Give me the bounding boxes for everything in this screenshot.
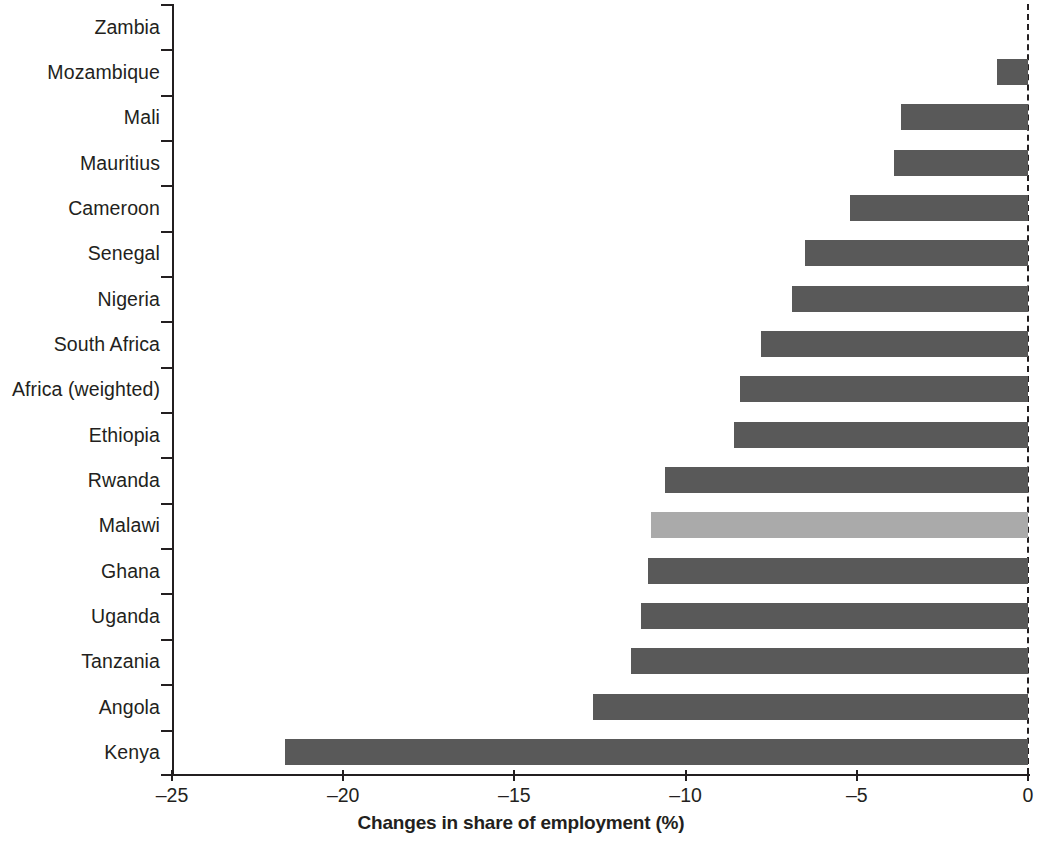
bar-row: Mali	[0, 95, 1042, 140]
bar-uganda	[641, 603, 1028, 629]
category-label-zambia: Zambia	[94, 15, 172, 38]
y-axis-tick	[161, 730, 172, 732]
y-axis-tick	[161, 503, 172, 505]
y-axis-tick	[161, 684, 172, 686]
category-label-mozambique: Mozambique	[47, 61, 172, 84]
category-label-ethiopia: Ethiopia	[89, 423, 172, 446]
category-label-senegal: Senegal	[88, 242, 172, 265]
bar-row: Rwanda	[0, 457, 1042, 502]
bar-cameroon	[850, 195, 1028, 221]
x-axis-tick-label: –25	[156, 784, 189, 807]
bar-row: Uganda	[0, 593, 1042, 638]
y-axis-tick	[161, 276, 172, 278]
bar-rows: ZambiaMozambiqueMaliMauritiusCameroonSen…	[0, 4, 1042, 775]
x-axis-tick	[1027, 770, 1029, 781]
y-axis-tick	[161, 593, 172, 595]
bar-row: Mozambique	[0, 49, 1042, 94]
y-axis-tick	[161, 95, 172, 97]
bar-row: Mauritius	[0, 140, 1042, 185]
bar-chart-figure: ZambiaMozambiqueMaliMauritiusCameroonSen…	[0, 0, 1042, 846]
x-axis-tick	[171, 770, 173, 781]
bar-south-africa	[761, 331, 1028, 357]
bar-row: Ghana	[0, 548, 1042, 593]
bar-africa-weighted	[740, 376, 1028, 402]
bar-row: Ethiopia	[0, 412, 1042, 457]
bar-row: Kenya	[0, 730, 1042, 775]
x-axis-tick	[856, 770, 858, 781]
category-label-cameroon: Cameroon	[68, 197, 172, 220]
category-label-tanzania: Tanzania	[81, 650, 172, 673]
bar-nigeria	[792, 286, 1028, 312]
bar-kenya	[285, 739, 1028, 765]
bar-row: Malawi	[0, 503, 1042, 548]
bar-row: Nigeria	[0, 276, 1042, 321]
x-axis-tick	[513, 770, 515, 781]
category-label-africa-weighted: Africa (weighted)	[12, 378, 172, 401]
bar-row: Zambia	[0, 4, 1042, 49]
category-label-uganda: Uganda	[91, 605, 172, 628]
x-axis-tick-label: 0	[1023, 784, 1034, 807]
x-axis-tick	[342, 770, 344, 781]
y-axis-tick	[161, 548, 172, 550]
bar-row: Africa (weighted)	[0, 367, 1042, 412]
y-axis-tick	[161, 639, 172, 641]
x-axis-tick-label: –10	[669, 784, 702, 807]
y-axis-tick	[161, 231, 172, 233]
category-label-south-africa: South Africa	[54, 333, 172, 356]
x-axis-tick-label: –20	[327, 784, 360, 807]
y-axis-tick	[161, 367, 172, 369]
y-axis-tick	[161, 4, 172, 6]
x-axis-tick-label: –15	[498, 784, 531, 807]
category-label-rwanda: Rwanda	[88, 469, 172, 492]
bar-row: Cameroon	[0, 185, 1042, 230]
bar-mozambique	[997, 59, 1028, 85]
category-label-mali: Mali	[124, 106, 172, 129]
bar-row: Tanzania	[0, 639, 1042, 684]
x-axis-tick	[685, 770, 687, 781]
bar-ghana	[648, 558, 1028, 584]
bar-row: Senegal	[0, 231, 1042, 276]
category-label-angola: Angola	[99, 695, 172, 718]
y-axis-tick	[161, 185, 172, 187]
bar-ethiopia	[734, 422, 1028, 448]
bar-mali	[901, 104, 1028, 130]
bar-tanzania	[631, 648, 1028, 674]
plot-area: ZambiaMozambiqueMaliMauritiusCameroonSen…	[0, 0, 1042, 790]
bar-rwanda	[665, 467, 1028, 493]
bar-angola	[593, 694, 1028, 720]
y-axis-tick	[161, 457, 172, 459]
bar-row: Angola	[0, 684, 1042, 729]
bar-malawi	[651, 512, 1028, 538]
category-label-mauritius: Mauritius	[80, 151, 172, 174]
x-axis-tick-label: –5	[846, 784, 868, 807]
y-axis-tick	[161, 412, 172, 414]
category-label-kenya: Kenya	[104, 741, 172, 764]
category-label-ghana: Ghana	[101, 559, 172, 582]
bar-senegal	[805, 240, 1028, 266]
category-label-nigeria: Nigeria	[98, 287, 172, 310]
x-axis-title: Changes in share of employment (%)	[0, 812, 1042, 834]
bar-mauritius	[894, 150, 1028, 176]
y-axis-tick	[161, 321, 172, 323]
y-axis-tick	[161, 49, 172, 51]
x-axis-ticks: –25–20–15–10–50	[0, 770, 1042, 846]
bar-row: South Africa	[0, 321, 1042, 366]
category-label-malawi: Malawi	[99, 514, 172, 537]
y-axis-tick	[161, 140, 172, 142]
